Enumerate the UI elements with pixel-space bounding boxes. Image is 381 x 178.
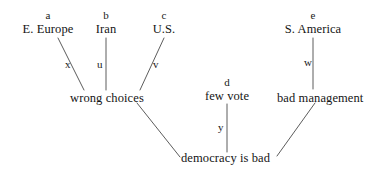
node-wrong-choices[interactable]: wrong choices [70, 92, 144, 105]
edge-label-x: x [65, 59, 71, 70]
node-tag-b: b [86, 10, 126, 21]
edge-line-bad-management-democracy [277, 103, 315, 156]
node-label-iran: Iran [86, 23, 126, 36]
edge-line-v [140, 38, 164, 90]
node-tag-a: a [16, 10, 80, 21]
node-label-e-europe: E. Europe [16, 23, 80, 36]
edge-line-wrong-choices-democracy [137, 103, 180, 157]
node-tag-c: c [142, 10, 186, 21]
node-few-vote[interactable]: d few vote [200, 77, 254, 103]
node-label-s-america: S. America [278, 23, 348, 36]
node-tag-d: d [200, 77, 254, 88]
node-s-america[interactable]: e S. America [278, 10, 348, 36]
node-us[interactable]: c U.S. [142, 10, 186, 36]
edge-label-y: y [218, 122, 224, 133]
node-iran[interactable]: b Iran [86, 10, 126, 36]
edge-line-x [58, 38, 84, 90]
node-label-us: U.S. [142, 23, 186, 36]
node-democracy-is-bad[interactable]: democracy is bad [181, 152, 270, 165]
node-e-europe[interactable]: a E. Europe [16, 10, 80, 36]
edge-label-w: w [304, 57, 312, 68]
diagram-canvas: a E. Europe b Iran c U.S. e S. America d… [0, 0, 381, 178]
node-bad-management[interactable]: bad management [277, 92, 363, 105]
edge-label-v: v [153, 59, 159, 70]
edge-label-u: u [97, 59, 103, 70]
node-label-few-vote: few vote [200, 90, 254, 103]
node-tag-e: e [278, 10, 348, 21]
